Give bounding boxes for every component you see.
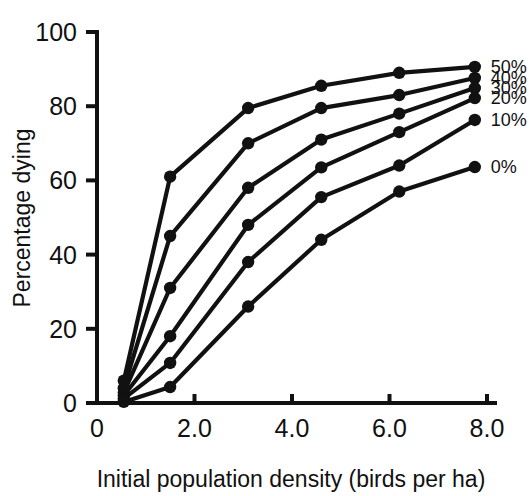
series-line-50pct [124, 67, 475, 381]
data-point-marker [164, 230, 176, 242]
data-point-marker [393, 67, 405, 79]
data-point-marker [393, 89, 405, 101]
y-tick-label: 80 [49, 92, 77, 120]
data-point-marker [315, 161, 327, 173]
data-point-marker [242, 219, 254, 231]
data-point-marker [242, 137, 254, 149]
series-label-0pct: 0% [491, 157, 517, 177]
data-point-marker [469, 114, 481, 126]
series-label-10pct: 10% [491, 110, 527, 130]
data-point-marker [164, 381, 176, 393]
series-label-20pct: 20% [491, 88, 527, 108]
chart-figure: 020406080100 02.04.06.08.0 50%40%30%20%1… [0, 0, 530, 496]
chart-data-point-markers [118, 61, 481, 408]
data-point-marker [469, 92, 481, 104]
y-tick-label: 40 [49, 241, 77, 269]
data-point-marker [393, 126, 405, 138]
data-point-marker [315, 80, 327, 92]
data-point-marker [393, 159, 405, 171]
data-point-marker [164, 170, 176, 182]
y-axis-tick-labels: 020406080100 [35, 18, 77, 417]
x-axis-title: Initial population density (birds per ha… [97, 466, 486, 492]
data-point-marker [315, 191, 327, 203]
data-point-marker [315, 133, 327, 145]
data-point-marker [164, 357, 176, 369]
data-point-marker [315, 234, 327, 246]
series-line-40pct [124, 78, 475, 388]
y-tick-label: 60 [49, 166, 77, 194]
data-point-marker [164, 282, 176, 294]
x-tick-label: 6.0 [372, 414, 407, 442]
series-end-labels: 50%40%30%20%10%0% [491, 57, 527, 177]
x-tick-label: 0 [90, 414, 104, 442]
y-axis-title: Percentage dying [9, 128, 35, 307]
data-point-marker [469, 61, 481, 73]
chart-series-lines [124, 67, 475, 402]
data-point-marker [393, 107, 405, 119]
x-tick-label: 2.0 [177, 414, 212, 442]
data-point-marker [469, 161, 481, 173]
data-point-marker [393, 185, 405, 197]
series-line-20pct [124, 98, 475, 396]
x-tick-label: 4.0 [275, 414, 310, 442]
data-point-marker [315, 102, 327, 114]
y-tick-label: 0 [63, 389, 77, 417]
line-chart-plot: 020406080100 02.04.06.08.0 50%40%30%20%1… [0, 0, 530, 496]
data-point-marker [242, 102, 254, 114]
series-line-30pct [124, 88, 475, 393]
data-point-marker [242, 300, 254, 312]
y-tick-label: 20 [49, 315, 77, 343]
series-line-0pct [124, 167, 475, 402]
data-point-marker [242, 256, 254, 268]
data-point-marker [118, 396, 130, 408]
data-point-marker [164, 330, 176, 342]
x-axis-tick-labels: 02.04.06.08.0 [90, 414, 504, 442]
y-tick-label: 100 [35, 18, 77, 46]
data-point-marker [242, 182, 254, 194]
x-tick-label: 8.0 [470, 414, 505, 442]
